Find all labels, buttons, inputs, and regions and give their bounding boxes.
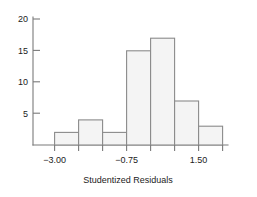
- histogram-bars: [55, 38, 223, 145]
- y-tick-label-10: 10: [18, 77, 28, 87]
- x-tick-label-1.50: 1.50: [190, 155, 208, 165]
- histogram-bar-3: [103, 132, 127, 145]
- histogram-bar-1: [55, 132, 79, 145]
- histogram-figure: 5 10 15 20 −3.00 −0.75 1.50: [0, 0, 257, 197]
- histogram-bar-2: [79, 120, 103, 145]
- x-tick-label--0.75: −0.75: [115, 155, 138, 165]
- histogram-bar-5: [151, 38, 175, 145]
- histogram-bar-4: [127, 51, 151, 145]
- histogram-plot-area: 5 10 15 20 −3.00 −0.75 1.50: [0, 0, 257, 197]
- x-axis-ticks: [55, 145, 223, 151]
- histogram-bar-7: [199, 126, 223, 145]
- y-axis-ticks: [33, 19, 40, 113]
- y-tick-label-5: 5: [23, 109, 28, 119]
- y-tick-label-20: 20: [18, 14, 28, 24]
- y-tick-label-15: 15: [18, 46, 28, 56]
- x-tick-label--3.00: −3.00: [43, 155, 66, 165]
- histogram-bar-6: [175, 101, 199, 145]
- x-axis-title: Studentized Residuals: [83, 175, 173, 185]
